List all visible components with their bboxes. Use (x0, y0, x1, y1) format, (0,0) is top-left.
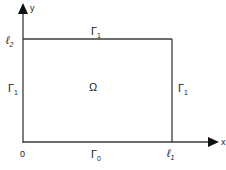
top-boundary-label: Γ1 (91, 25, 101, 39)
x-extent-label: ℓ1 (166, 147, 175, 161)
origin-label: 0 (20, 149, 25, 159)
x-axis-label: x (221, 137, 226, 147)
x-axis-arrow-icon (208, 137, 219, 147)
bottom-boundary-label: Γ0 (91, 148, 101, 162)
domain-diagram: y x 0 ℓ2 ℓ1 Γ1 Γ1 Γ1 Γ0 Ω (0, 0, 226, 170)
y-axis-arrow-icon (18, 3, 28, 14)
domain-label: Ω (89, 81, 97, 93)
left-boundary-label: Γ1 (8, 82, 18, 96)
right-boundary-label: Γ1 (178, 82, 188, 96)
y-axis-label: y (30, 3, 35, 13)
y-extent-label: ℓ2 (5, 34, 14, 48)
